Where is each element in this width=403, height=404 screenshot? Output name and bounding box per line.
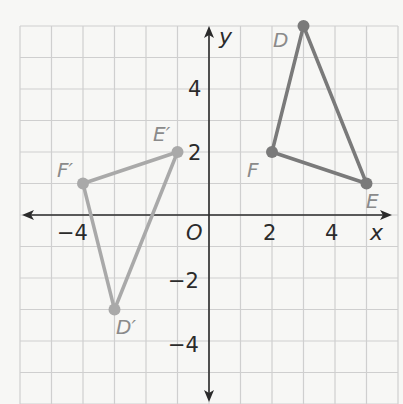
coordinate-plane: y x O −4 2 4 4 2 −2 −4 D′ E′ F′ D E F <box>0 0 403 404</box>
vertex-label-e: E <box>366 189 379 213</box>
y-tick-label: −4 <box>168 333 199 357</box>
vertex-f-prime <box>77 178 89 190</box>
y-tick-label: 2 <box>188 141 201 165</box>
vertex-label-d: D <box>273 28 288 52</box>
vertex-label-d-prime: D′ <box>116 315 136 339</box>
vertex-f <box>266 146 278 158</box>
vertex-d-prime <box>109 304 121 316</box>
vertex-label-f-prime: F′ <box>57 158 74 182</box>
x-axis-label: x <box>369 220 384 245</box>
x-tick-label: −4 <box>57 221 88 245</box>
axes: y x O <box>22 24 392 402</box>
vertex-d <box>298 20 310 32</box>
y-tick-label: −2 <box>168 269 199 293</box>
vertex-label-e-prime: E′ <box>153 122 171 146</box>
triangle-d-prime-e-prime-f-prime <box>83 152 178 310</box>
x-tick-label: 2 <box>263 221 276 245</box>
y-tick-label: 4 <box>188 77 201 101</box>
vertex-label-f: F <box>247 158 259 182</box>
vertex-e-prime <box>172 146 184 158</box>
tick-labels: −4 2 4 4 2 −2 −4 <box>57 77 338 357</box>
vertex-e <box>361 178 373 190</box>
y-axis-label: y <box>218 24 233 49</box>
origin-label: O <box>186 221 203 245</box>
x-tick-label: 4 <box>325 221 338 245</box>
